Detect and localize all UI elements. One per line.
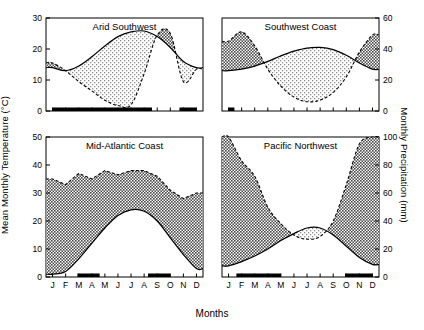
x-tick-label: M xyxy=(75,280,82,290)
x-tick-label: J xyxy=(226,280,230,290)
y-tick-label: 30 xyxy=(33,13,43,23)
panel-title: Southwest Coast xyxy=(265,21,337,32)
panel-top-right: 0204060Southwest Coast xyxy=(222,13,393,116)
x-tick-label: M xyxy=(277,280,284,290)
y-tick-label: 10 xyxy=(33,244,43,254)
x-tick-label: A xyxy=(89,280,95,290)
arid-period-bar xyxy=(179,108,196,112)
y-tick-label: 80 xyxy=(383,160,393,170)
x-axis-label: Months xyxy=(0,308,424,319)
x-tick-label: J xyxy=(129,280,133,290)
y-axis-label-right: Monthly Precipitation (mm) xyxy=(394,0,410,330)
y-tick-label: 40 xyxy=(383,216,393,226)
y-tick-label: 40 xyxy=(383,44,393,54)
x-tick-label: F xyxy=(63,280,68,290)
arid-period-bar xyxy=(345,274,372,278)
panel-title: Pacific Northwest xyxy=(264,140,338,151)
y-tick-label: 10 xyxy=(33,75,43,85)
arid-period-bar xyxy=(77,274,99,278)
panel-bottom-left: 01020304050JFMAMJJASONDMid-Atlantic Coas… xyxy=(33,132,203,290)
x-tick-label: A xyxy=(265,280,271,290)
x-tick-label: J xyxy=(116,280,120,290)
y-tick-label: 20 xyxy=(33,216,43,226)
moist-fill xyxy=(222,135,379,277)
x-tick-label: M xyxy=(251,280,258,290)
x-tick-label: A xyxy=(317,280,323,290)
y-tick-label: 40 xyxy=(33,160,43,170)
x-tick-label: O xyxy=(167,280,174,290)
x-tick-label: D xyxy=(193,280,199,290)
panel-title: Mid-Atlantic Coast xyxy=(86,140,163,151)
x-tick-label: J xyxy=(50,280,54,290)
x-tick-label: N xyxy=(356,280,362,290)
x-tick-label: O xyxy=(343,280,350,290)
x-tick-label: S xyxy=(330,280,336,290)
panel-title: Arid Southwest xyxy=(93,21,157,32)
y-tick-label: 0 xyxy=(383,106,388,116)
y-tick-label: 20 xyxy=(383,75,393,85)
moist-fill xyxy=(46,171,203,277)
x-tick-label: D xyxy=(369,280,375,290)
x-tick-label: N xyxy=(180,280,186,290)
y-tick-label: 0 xyxy=(37,106,42,116)
y-tick-label: 0 xyxy=(383,272,388,282)
x-tick-label: A xyxy=(141,280,147,290)
y-tick-label: 60 xyxy=(383,13,393,23)
arid-period-bar xyxy=(236,274,280,278)
panel-bottom-right: 020406080100JFMAMJJASONDPacific Northwes… xyxy=(222,132,397,290)
y-tick-label: 20 xyxy=(33,44,43,54)
x-tick-label: F xyxy=(239,280,244,290)
y-tick-label: 0 xyxy=(37,272,42,282)
x-tick-label: J xyxy=(305,280,309,290)
panel-top-left: 0102030Arid Southwest xyxy=(33,13,203,116)
climate-diagram-svg: 0102030Arid Southwest0204060Southwest Co… xyxy=(0,0,424,330)
y-tick-label: 50 xyxy=(33,132,43,142)
x-tick-label: M xyxy=(101,280,108,290)
x-tick-label: S xyxy=(154,280,160,290)
climate-diagram-figure: 0102030Arid Southwest0204060Southwest Co… xyxy=(0,0,424,330)
y-tick-label: 60 xyxy=(383,188,393,198)
arid-period-bar xyxy=(53,108,152,112)
y-tick-label: 20 xyxy=(383,244,393,254)
arid-period-bar xyxy=(229,108,235,112)
arid-period-bar xyxy=(148,274,170,278)
y-axis-label-left: Mean Monthly Temperature (°C) xyxy=(0,0,15,330)
y-tick-label: 30 xyxy=(33,188,43,198)
x-tick-label: J xyxy=(292,280,296,290)
